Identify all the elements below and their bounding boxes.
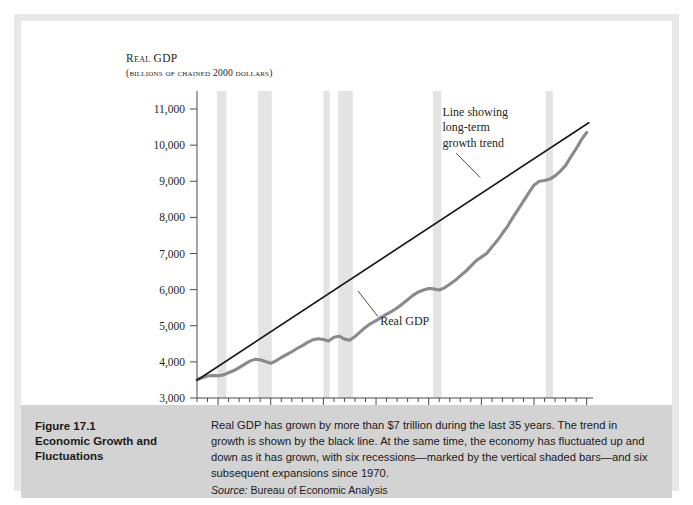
y-axis-title: Real GDP (billions of chained 2000 dolla… xyxy=(126,51,273,79)
chart-plot-area: Real GDP (billions of chained 2000 dolla… xyxy=(21,21,672,405)
recession-bar xyxy=(258,91,272,398)
caption-description: Real GDP has grown by more than $7 trill… xyxy=(211,418,651,482)
y-tick-label: 5,000 xyxy=(159,320,185,333)
recession-bar xyxy=(338,91,353,398)
gdp-line-chart: 3,0004,0005,0006,0007,0008,0009,00010,00… xyxy=(21,21,672,405)
y-tick-label: 8,000 xyxy=(159,211,185,224)
figure-title: Figure 17.1 Economic Growth and Fluctuat… xyxy=(35,419,200,465)
source-line: Source: Bureau of Economic Analysis xyxy=(211,483,651,498)
recession-bar xyxy=(323,91,329,398)
recession-bar xyxy=(433,91,441,398)
source-label: Source: xyxy=(211,484,248,496)
caption-band: Figure 17.1 Economic Growth and Fluctuat… xyxy=(21,405,672,498)
y-tick-label: 11,000 xyxy=(154,103,185,116)
figure-container: Real GDP (billions of chained 2000 dolla… xyxy=(14,14,679,491)
y-tick-label: 3,000 xyxy=(159,392,185,405)
y-tick-label: 4,000 xyxy=(159,356,185,369)
trend-annotation: Line showinglong-termgrowth trend xyxy=(442,105,508,150)
y-axis-title-sub: (billions of chained 2000 dollars) xyxy=(126,67,273,80)
recession-bar xyxy=(546,91,553,398)
y-tick-label: 7,000 xyxy=(159,248,185,261)
y-tick-label: 6,000 xyxy=(159,284,185,297)
real-gdp-annotation: Real GDP xyxy=(380,314,429,328)
figure-title-line1: Economic Growth and xyxy=(35,434,200,449)
source-value: Bureau of Economic Analysis xyxy=(248,484,388,496)
figure-number: Figure 17.1 xyxy=(35,419,200,434)
series-group xyxy=(197,123,589,381)
y-tick-label: 10,000 xyxy=(153,139,185,152)
recession-bar xyxy=(217,91,226,398)
real-gdp-annotation-leader-line xyxy=(358,291,378,317)
y-tick-label: 9,000 xyxy=(159,175,185,188)
series-line xyxy=(197,123,589,381)
caption-text-block: Real GDP has grown by more than $7 trill… xyxy=(211,418,651,498)
y-axis-title-main: Real GDP xyxy=(126,51,273,67)
trend-annotation-leader-line xyxy=(456,153,480,178)
figure-title-line2: Fluctuations xyxy=(35,449,200,464)
